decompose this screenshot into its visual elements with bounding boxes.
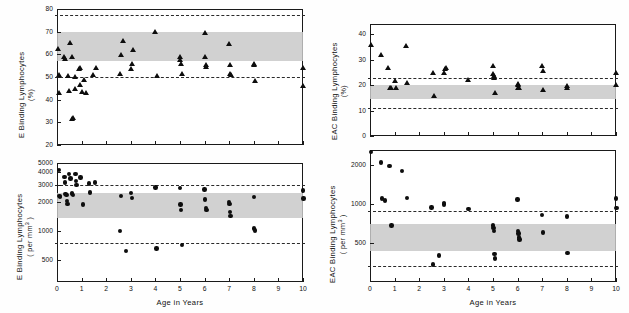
data-point (368, 42, 374, 47)
y-tick (370, 111, 374, 112)
data-point (65, 202, 69, 206)
x-tick (254, 141, 255, 145)
data-point (541, 230, 545, 234)
data-point (154, 73, 160, 78)
x-tick (518, 132, 519, 136)
x-tick (567, 278, 568, 282)
y-tick (370, 85, 374, 86)
data-point (565, 214, 569, 218)
data-point (81, 202, 85, 206)
x-tick (591, 278, 592, 282)
x-tick-label: 7 (221, 285, 237, 292)
data-point (74, 183, 78, 187)
data-point (93, 65, 99, 70)
y-tick-label: 1000 (340, 200, 366, 207)
data-point (492, 90, 498, 95)
x-tick-label: 6 (197, 285, 213, 292)
data-point (517, 237, 521, 241)
y-tick-label: 500 (27, 256, 53, 263)
data-point (69, 54, 75, 59)
data-point (226, 41, 232, 46)
data-point (227, 62, 233, 67)
data-point (431, 262, 435, 266)
data-point (443, 65, 449, 70)
data-point (202, 187, 206, 191)
data-point (73, 172, 77, 176)
x-tick (616, 278, 617, 282)
x-tick (370, 132, 371, 136)
y-tick-label: 5000 (27, 159, 53, 166)
y-tick (57, 172, 61, 173)
x-tick (395, 132, 396, 136)
x-tick (106, 141, 107, 145)
data-point (202, 30, 208, 35)
data-point (515, 197, 519, 201)
data-point (179, 71, 185, 76)
x-tick-label: 0 (49, 285, 65, 292)
data-point (430, 70, 436, 75)
x-tick-label: 2 (411, 285, 427, 292)
y-tick (57, 32, 61, 33)
y-tick (370, 204, 374, 205)
data-point (385, 65, 391, 70)
data-point (81, 77, 87, 82)
data-point (392, 78, 398, 83)
x-tick-label: 8 (246, 285, 262, 292)
y-tick-label: 30 (340, 56, 366, 63)
data-point (252, 78, 258, 83)
y-tick-label: 20 (340, 81, 366, 88)
x-tick-label: 4 (147, 285, 163, 292)
data-point (62, 175, 66, 179)
x-tick (493, 278, 494, 282)
x-tick (542, 132, 543, 136)
x-tick-label: 8 (559, 285, 575, 292)
data-point (117, 71, 123, 76)
data-point (93, 180, 97, 184)
x-tick (278, 278, 279, 282)
data-point (540, 68, 546, 73)
x-tick-label: 3 (436, 285, 452, 292)
figure-container: E Binding Lymphocytes (%) 20304050607080… (0, 0, 629, 313)
x-tick (303, 141, 304, 145)
data-point (153, 185, 157, 189)
y-tick (57, 9, 61, 10)
reference-line (55, 77, 305, 78)
data-point (253, 228, 257, 232)
x-tick (82, 278, 83, 282)
x-tick (303, 278, 304, 282)
data-point (493, 256, 497, 260)
y-tick-label: 40 (27, 96, 53, 103)
data-point (203, 64, 209, 69)
data-point (251, 62, 257, 67)
data-point (64, 193, 68, 197)
x-tick (205, 141, 206, 145)
y-tick-label: 2000 (340, 161, 366, 168)
data-point (202, 54, 208, 59)
reference-line (368, 108, 618, 109)
data-point (55, 46, 61, 51)
data-point (154, 246, 158, 250)
data-point (490, 63, 496, 68)
x-tick-label: 1 (74, 285, 90, 292)
y-tick-label: 3000 (27, 181, 53, 188)
x-tick (468, 278, 469, 282)
x-tick (518, 278, 519, 282)
data-point (429, 205, 433, 209)
data-point (404, 80, 410, 85)
data-point (466, 207, 470, 211)
data-point (492, 229, 496, 233)
data-point (130, 47, 136, 52)
data-point (204, 208, 208, 212)
x-tick (567, 132, 568, 136)
x-tick-label: 3 (123, 285, 139, 292)
y-tick-label: 1000 (27, 227, 53, 234)
data-point (77, 82, 83, 87)
data-point (118, 52, 124, 57)
data-point (87, 181, 91, 185)
reference-line (368, 211, 618, 212)
y-tick (370, 60, 374, 61)
x-tick-label: 10 (295, 285, 311, 292)
data-point (72, 74, 78, 79)
data-point (152, 29, 158, 34)
data-point (565, 251, 569, 255)
